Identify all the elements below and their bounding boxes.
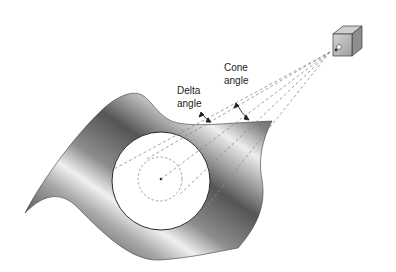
diagram-canvas: Cone angle Delta angle: [0, 0, 396, 272]
delta-angle-label-line1: Delta: [177, 85, 201, 96]
source-box-front: [333, 34, 352, 56]
illuminated-spot: [112, 132, 210, 230]
source-emitter: [335, 49, 338, 52]
light-source: [333, 26, 362, 56]
delta-angle-indicator: [199, 112, 211, 122]
source-aperture: [337, 45, 342, 50]
curved-sheet: [25, 93, 272, 260]
cone-angle-indicator: [234, 103, 249, 120]
cone-angle-label-line2: angle: [224, 75, 249, 86]
cone-angle-label-line1: Cone: [224, 62, 248, 73]
delta-angle-label-line2: angle: [177, 98, 202, 109]
